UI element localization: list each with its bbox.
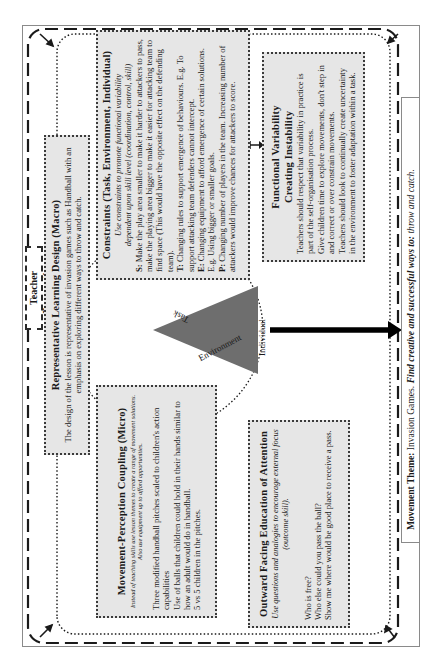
- fv-line: Teachers should respect that variability…: [295, 60, 316, 254]
- triangle-label-individual: Individual: [257, 319, 267, 356]
- movement-theme-goal: Find creative and successful ways to:: [405, 236, 416, 383]
- ofa-line: Who is free?: [303, 428, 313, 620]
- rld-title: Representative Learning Design (Macro): [50, 143, 63, 447]
- mpc-title: Movement-Perception Coupling (Micro): [116, 393, 129, 610]
- movement-perception-coupling-box: Movement-Perception Coupling (Micro) Ins…: [96, 385, 217, 618]
- fv-title: Functional Variability: [270, 60, 283, 254]
- mpc-subtitle: Instead of teaching skills use lesson th…: [129, 393, 144, 610]
- movement-theme-label: Movement Theme:: [405, 453, 416, 530]
- constraints-title: Constraints (Task, Environment, Individu…: [101, 38, 114, 272]
- outward-facing-attention-box: Outward Facing Education of Attention Us…: [248, 420, 350, 628]
- constraint-item-equipment: E: Changing equipment to afford emergenc…: [196, 38, 217, 272]
- fv-line: Teachers should look to continually crea…: [337, 60, 358, 254]
- representative-learning-design-box: Representative Learning Design (Macro) T…: [44, 135, 90, 455]
- movement-theme-goal-rest: throw and catch.: [405, 169, 416, 236]
- constraint-item-task: T: Changing rules to support emergence o…: [175, 38, 196, 272]
- constraint-item-players: P: Changing number of players in the tea…: [217, 38, 238, 272]
- mpc-line: 5 vs 5 children in the pitches.: [192, 393, 202, 610]
- ofa-line: Show me where would be good place to rec…: [323, 428, 333, 620]
- movement-theme-box: Movement Theme: Invasion Games. Find cre…: [401, 97, 420, 543]
- teacher-preparation-label: Teacher Preparation: [25, 246, 43, 330]
- constraints-box: Constraints (Task, Environment, Individu…: [96, 30, 250, 280]
- mpc-line: Use of balls that children could hold in…: [172, 393, 193, 610]
- ofa-title: Outward Facing Education of Attention: [258, 428, 271, 620]
- fv-subtitle: Creating Instability: [283, 60, 296, 254]
- ofa-line: Who else could you pass the ball?: [313, 428, 323, 620]
- mpc-line: Three modified handball pitches scaled t…: [151, 393, 172, 610]
- constraints-subtitle-2: dependent upon skill level (coordination…: [124, 38, 134, 272]
- movement-theme-value: Invasion Games.: [405, 383, 416, 452]
- constraint-item-space: S: Make the play area smaller to make it…: [134, 38, 176, 272]
- rld-body: The design of the lesson is representati…: [63, 143, 84, 447]
- pedagogy-framework-diagram: Task Environment Individual Teacher Prep…: [0, 0, 442, 670]
- ofa-subtitle: Use questions and analogies to encourage…: [271, 428, 291, 620]
- fv-line: Give children time to explore movements,…: [316, 60, 337, 254]
- constraints-subtitle: Use constraints to promote functional va…: [114, 38, 124, 272]
- functional-variability-box: Functional Variability Creating Instabil…: [262, 52, 365, 262]
